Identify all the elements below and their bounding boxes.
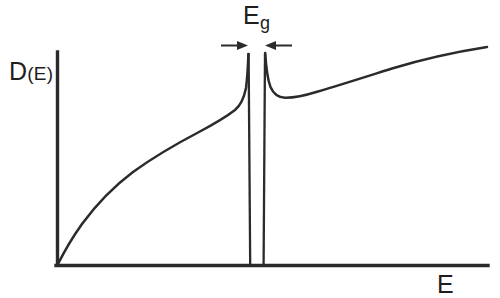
- gap-arrow-right: [265, 41, 292, 50]
- y-axis-label-main: D: [9, 57, 27, 85]
- gap-arrow-right-head: [265, 41, 276, 50]
- valence-band-dos-curve: [58, 54, 248, 264]
- band-gap-label: Eg: [243, 3, 270, 32]
- conduction-band-edge-line: [264, 53, 265, 265]
- dos-band-gap-figure: D(E) E Eg: [0, 0, 500, 298]
- figure-canvas: [0, 0, 500, 298]
- valence-band-edge-line: [249, 53, 251, 265]
- y-axis-label-paren: (E): [27, 63, 53, 84]
- band-gap-label-subscript: g: [260, 13, 270, 33]
- gap-arrow-left-head: [237, 41, 248, 50]
- y-axis-label: D(E): [9, 59, 53, 84]
- x-axis-label: E: [437, 272, 454, 297]
- band-gap-label-main: E: [243, 1, 260, 29]
- conduction-band-dos-curve: [265, 47, 487, 98]
- gap-arrow-left: [221, 41, 248, 50]
